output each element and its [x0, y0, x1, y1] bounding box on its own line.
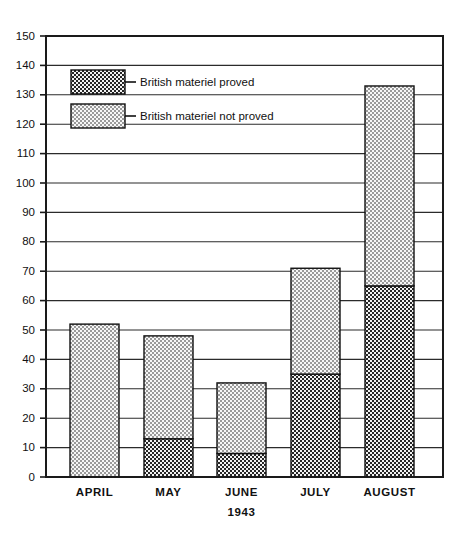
x-axis-year-label: 1943 [228, 506, 256, 518]
legend-swatch-not-proved [71, 104, 125, 128]
chart-canvas: 0102030405060708090100110120130140150 AP… [0, 0, 466, 535]
ytick-label-10: 10 [22, 441, 35, 453]
bar-segment-proved-june [217, 453, 266, 477]
x-label-may: MAY [155, 486, 181, 498]
bar-group-april [70, 324, 119, 477]
ytick-label-70: 70 [22, 265, 35, 277]
x-axis-labels: APRILMAYJUNEJULYAUGUST1943 [76, 486, 416, 518]
legend-label-proved: British materiel proved [140, 76, 254, 88]
bar-group-august [365, 86, 414, 477]
x-label-april: APRIL [76, 486, 114, 498]
bar-segment-proved-may [144, 439, 193, 477]
bar-segment-not-proved-july [291, 268, 340, 374]
ytick-label-0: 0 [29, 471, 35, 483]
bar-segment-proved-july [291, 374, 340, 477]
x-label-july: JULY [300, 486, 331, 498]
ytick-label-80: 80 [22, 235, 35, 247]
ytick-label-150: 150 [16, 30, 35, 42]
y-axis-ticks: 0102030405060708090100110120130140150 [16, 30, 46, 483]
bar-group-june [217, 383, 266, 477]
ytick-label-50: 50 [22, 324, 35, 336]
ytick-label-120: 120 [16, 118, 35, 130]
ytick-label-20: 20 [22, 412, 35, 424]
legend-label-not-proved: British materiel not proved [140, 110, 274, 122]
bar-segment-not-proved-june [217, 383, 266, 454]
ytick-label-40: 40 [22, 353, 35, 365]
ytick-label-30: 30 [22, 382, 35, 394]
bar-group-may [144, 336, 193, 477]
bar-group-july [291, 268, 340, 477]
bar-segment-not-proved-may [144, 336, 193, 439]
ytick-label-100: 100 [16, 177, 35, 189]
x-label-august: AUGUST [363, 486, 415, 498]
ytick-label-90: 90 [22, 206, 35, 218]
ytick-label-130: 130 [16, 88, 35, 100]
ytick-label-140: 140 [16, 59, 35, 71]
bar-segment-not-proved-april [70, 324, 119, 477]
bar-segment-not-proved-august [365, 86, 414, 286]
bar-chart: 0102030405060708090100110120130140150 AP… [0, 0, 466, 535]
ytick-label-60: 60 [22, 294, 35, 306]
chart-legend: British materiel provedBritish materiel … [71, 70, 274, 128]
x-label-june: JUNE [225, 486, 258, 498]
ytick-label-110: 110 [17, 147, 35, 159]
legend-swatch-proved [71, 70, 125, 94]
bar-segment-proved-august [365, 286, 414, 477]
